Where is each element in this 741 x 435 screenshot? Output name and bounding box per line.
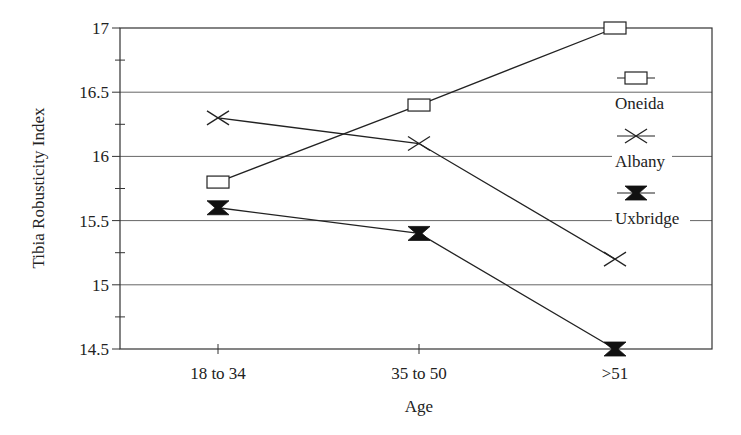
x-marker-icon	[604, 252, 626, 266]
legend-item-oneida: Oneida	[612, 72, 672, 114]
x-axis: 18 to 3435 to 50>51	[190, 344, 628, 383]
y-tick-label: 15	[92, 276, 109, 295]
y-tick-label: 16.5	[79, 83, 109, 102]
square-marker-icon	[604, 22, 626, 34]
legend-label: Uxbridge	[615, 209, 679, 228]
x-tick-label: 18 to 34	[190, 364, 246, 383]
y-axis-title: Tibia Robusticity Index	[29, 107, 48, 268]
series-albany	[207, 111, 626, 266]
x-marker-icon	[207, 111, 229, 125]
data-series	[207, 22, 626, 356]
square-marker-icon	[207, 176, 229, 188]
hourglass-marker-icon	[408, 226, 430, 240]
y-axis: 14.51515.51616.517	[79, 19, 125, 359]
x-axis-title: Age	[405, 397, 433, 416]
y-tick-label: 17	[92, 19, 110, 38]
legend-item-uxbridge: Uxbridge	[612, 186, 690, 229]
series-uxbridge	[207, 201, 626, 356]
legend-item-albany: Albany	[612, 129, 672, 172]
square-marker-icon	[625, 72, 647, 84]
y-tick-label: 15.5	[79, 212, 109, 231]
x-tick-label: >51	[602, 364, 629, 383]
y-tick-label: 14.5	[79, 340, 109, 359]
hourglass-marker-icon	[207, 201, 229, 215]
x-marker-icon	[408, 137, 430, 151]
line-chart: 14.51515.51616.517 18 to 3435 to 50>51 O…	[0, 0, 741, 435]
legend-label: Oneida	[615, 94, 665, 113]
square-marker-icon	[408, 99, 430, 111]
series-oneida	[207, 22, 626, 188]
legend: OneidaAlbanyUxbridge	[612, 72, 690, 229]
legend-label: Albany	[615, 152, 666, 171]
x-tick-label: 35 to 50	[391, 364, 447, 383]
y-tick-label: 16	[92, 147, 109, 166]
